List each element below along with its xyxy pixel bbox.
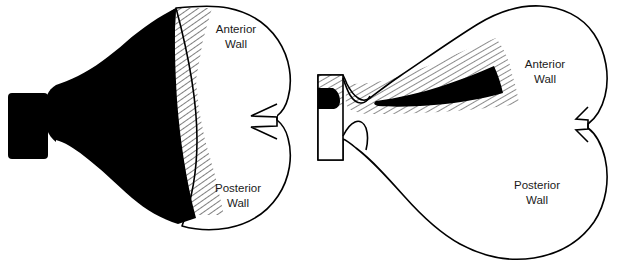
right-anterior-wall-line2: Wall: [534, 73, 556, 85]
left-anterior-wall-line1: Anterior: [216, 23, 256, 35]
right-panel: Anterior Wall Posterior Wall: [310, 6, 607, 259]
right-posterior-wall-line1: Posterior: [514, 179, 560, 191]
right-uterus-outline: [318, 6, 607, 259]
uterus-diagram-svg: Anterior Wall Posterior Wall: [0, 0, 623, 274]
left-panel: Anterior Wall Posterior Wall: [8, 0, 290, 240]
left-anterior-wall-line2: Wall: [225, 38, 247, 50]
figure-root: Anterior Wall Posterior Wall: [0, 0, 623, 274]
left-cervical-canal: [8, 93, 48, 159]
right-anterior-wall-line1: Anterior: [525, 58, 565, 70]
left-posterior-wall-line1: Posterior: [215, 182, 261, 194]
left-posterior-wall-line2: Wall: [227, 197, 249, 209]
right-posterior-wall-line2: Wall: [526, 194, 548, 206]
